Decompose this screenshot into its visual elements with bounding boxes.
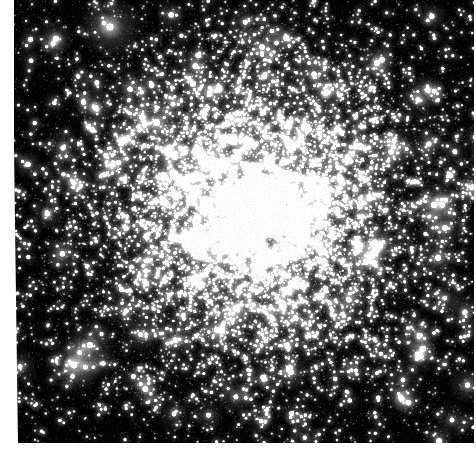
star-cluster-image: [14, 0, 476, 443]
screenshot-root: [0, 0, 476, 455]
page-margin-bottom: [0, 443, 476, 455]
astronomical-image-plate: [14, 0, 476, 443]
